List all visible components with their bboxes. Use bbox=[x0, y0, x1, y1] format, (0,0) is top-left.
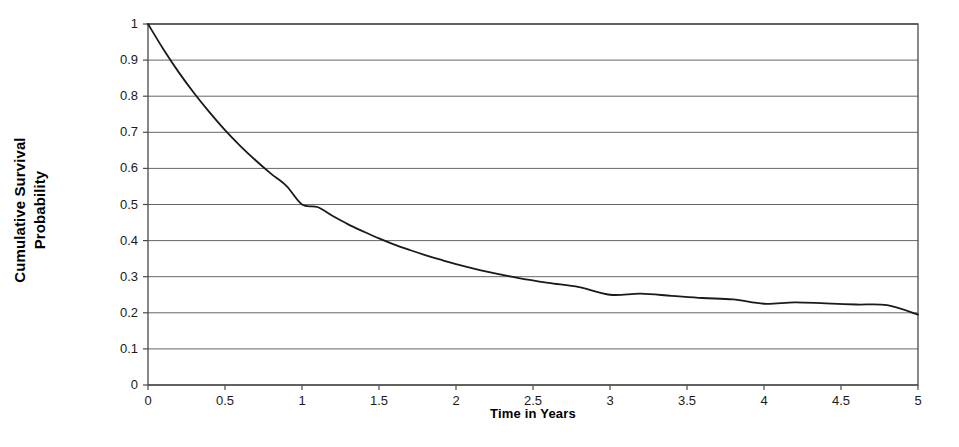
tick-marks-group bbox=[143, 24, 918, 390]
survival-curve-chart: Cumulative Survival Probability 10.90.80… bbox=[0, 0, 959, 447]
plot-area bbox=[0, 0, 959, 447]
gridlines-group bbox=[148, 24, 918, 385]
y-tick-label: 0.4 bbox=[96, 234, 138, 247]
y-tick-label: 0.3 bbox=[96, 270, 138, 283]
x-axis-title: Time in Years bbox=[148, 406, 918, 421]
y-tick-label: 0 bbox=[96, 378, 138, 391]
series-line bbox=[148, 24, 918, 315]
y-tick-label: 0.2 bbox=[96, 306, 138, 319]
y-tick-label: 0.1 bbox=[96, 342, 138, 355]
data-series-group bbox=[148, 24, 918, 315]
y-tick-label: 1 bbox=[96, 17, 138, 30]
y-tick-label: 0.8 bbox=[96, 89, 138, 102]
y-tick-label: 0.5 bbox=[96, 198, 138, 211]
y-tick-label: 0.6 bbox=[96, 161, 138, 174]
y-tick-label: 0.7 bbox=[96, 125, 138, 138]
y-tick-label: 0.9 bbox=[96, 53, 138, 66]
